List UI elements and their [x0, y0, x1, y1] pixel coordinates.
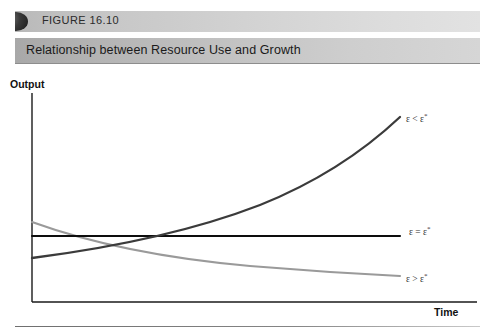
chart-plot-area: Output Time ε < ε* ε = ε* ε > ε*	[0, 0, 494, 334]
curve-label-epsilon-less-text: ε < ε	[406, 114, 424, 124]
curve-label-epsilon-equal-text: ε = ε	[409, 227, 427, 237]
curve-label-epsilon-equal-sup: *	[427, 225, 431, 233]
curve-label-epsilon-less-sup: *	[424, 112, 428, 120]
curve-label-epsilon-greater: ε > ε*	[406, 272, 428, 284]
curve-label-epsilon-greater-sup: *	[424, 272, 428, 280]
x-axis-title: Time	[434, 306, 458, 318]
curve-label-epsilon-less: ε < ε*	[406, 112, 428, 124]
y-axis-title: Output	[10, 78, 44, 90]
curve-label-epsilon-greater-text: ε > ε	[406, 274, 424, 284]
curve-label-epsilon-equal: ε = ε*	[409, 225, 431, 237]
bottom-divider	[15, 326, 480, 327]
